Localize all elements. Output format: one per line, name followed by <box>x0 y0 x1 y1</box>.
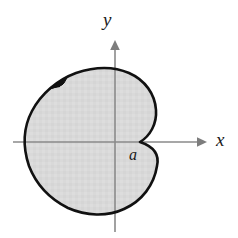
y-axis-label: y <box>103 10 111 29</box>
cusp-distance-label: a <box>129 147 137 163</box>
figure-canvas <box>0 0 238 238</box>
arrow-up-icon <box>110 40 120 50</box>
x-axis-label: x <box>216 130 224 149</box>
arrow-right-icon <box>197 137 207 147</box>
cardioid-figure: y x a <box>0 0 238 238</box>
